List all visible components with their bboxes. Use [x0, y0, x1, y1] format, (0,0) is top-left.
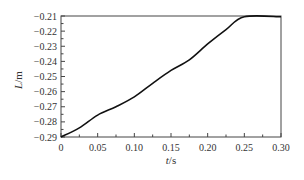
x-axis: 00.050.100.150.200.250.30	[59, 133, 290, 153]
y-axis-title: L/m	[12, 71, 24, 90]
x-axis-unit: /s	[169, 154, 176, 166]
line-chart: −0.21−0.22−0.23−0.24−0.25−0.26−0.27−0.28…	[0, 0, 304, 180]
y-tick-label: −0.24	[34, 56, 57, 67]
y-axis-unit: /m	[12, 71, 24, 83]
y-axis-var: L	[12, 83, 24, 90]
y-tick-label: −0.27	[34, 101, 57, 112]
x-tick-label: 0.05	[89, 142, 107, 153]
series-line-L	[61, 16, 281, 137]
x-tick-label: 0.10	[126, 142, 144, 153]
y-tick-label: −0.21	[34, 11, 57, 22]
y-tick-label: −0.22	[34, 26, 57, 37]
y-tick-label: −0.23	[34, 41, 57, 52]
x-tick-label: 0.20	[199, 142, 217, 153]
y-axis: −0.21−0.22−0.23−0.24−0.25−0.26−0.27−0.28…	[34, 11, 65, 143]
plot-frame	[61, 16, 281, 137]
data-series	[61, 16, 281, 137]
plot-border	[61, 16, 281, 137]
y-tick-label: −0.29	[34, 132, 57, 143]
y-tick-label: −0.26	[34, 86, 57, 97]
x-tick-label: 0.15	[162, 142, 180, 153]
x-tick-label: 0	[59, 142, 64, 153]
y-tick-label: −0.28	[34, 116, 57, 127]
y-tick-label: −0.25	[34, 71, 57, 82]
x-axis-title: t/s	[166, 154, 176, 166]
x-tick-label: 0.30	[272, 142, 290, 153]
x-tick-label: 0.25	[236, 142, 254, 153]
